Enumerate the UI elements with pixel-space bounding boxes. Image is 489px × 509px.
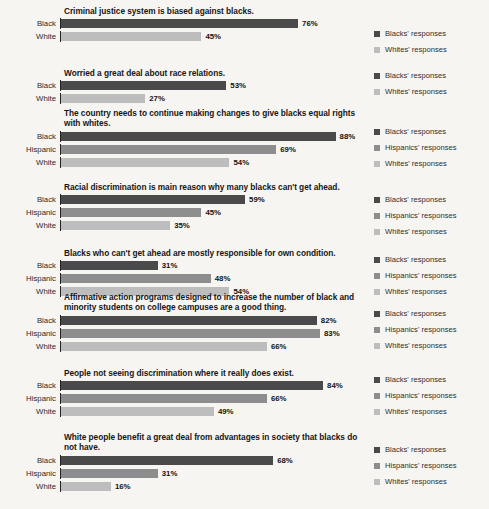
legend-swatch-icon xyxy=(374,89,380,95)
category-label: White xyxy=(0,406,60,417)
legend-item-black: Blacks' responses xyxy=(374,26,489,42)
legend-label: Hispanics' responses xyxy=(385,322,457,338)
legend-swatch-icon xyxy=(374,377,380,383)
legend-label: Hispanics' responses xyxy=(385,458,457,474)
bar-value-label: 66% xyxy=(267,341,287,352)
legend-item-hispanic: Hispanics' responses xyxy=(374,268,489,284)
legend-label: Blacks' responses xyxy=(385,26,446,42)
category-label: Hispanic xyxy=(0,328,60,339)
legend-label: Whites' responses xyxy=(385,338,447,354)
legend-label: Hispanics' responses xyxy=(385,140,457,156)
bar xyxy=(61,381,323,390)
legend-item-white: Whites' responses xyxy=(374,84,489,100)
category-label: Hispanic xyxy=(0,393,60,404)
legend-item-white: Whites' responses xyxy=(374,338,489,354)
category-label: Hispanic xyxy=(0,273,60,284)
legend-label: Whites' responses xyxy=(385,224,447,240)
bar xyxy=(61,456,273,465)
legend-item-hispanic: Hispanics' responses xyxy=(374,388,489,404)
bar-value-label: 76% xyxy=(298,18,318,29)
bar-value-label: 59% xyxy=(245,194,265,205)
bar-value-label: 53% xyxy=(226,80,246,91)
bar-value-label: 45% xyxy=(201,207,221,218)
bar-value-label: 82% xyxy=(317,315,337,326)
bar-value-label: 68% xyxy=(273,455,293,466)
legend-swatch-icon xyxy=(374,129,380,135)
legend-item-white: Whites' responses xyxy=(374,224,489,240)
legend-swatch-icon xyxy=(374,393,380,399)
legend-swatch-icon xyxy=(374,343,380,349)
bar xyxy=(61,342,267,351)
legend-item-black: Blacks' responses xyxy=(374,124,489,140)
category-label: White xyxy=(0,341,60,352)
legend-swatch-icon xyxy=(374,213,380,219)
category-label: White xyxy=(0,220,60,231)
legend-swatch-icon xyxy=(374,161,380,167)
legend-item-black: Blacks' responses xyxy=(374,372,489,388)
legend-item-black: Blacks' responses xyxy=(374,306,489,322)
category-label: Hispanic xyxy=(0,207,60,218)
legend-swatch-icon xyxy=(374,327,380,333)
legend-swatch-icon xyxy=(374,463,380,469)
bar xyxy=(61,221,170,230)
bar-value-label: 84% xyxy=(323,380,343,391)
bar xyxy=(61,329,320,338)
legend-swatch-icon xyxy=(374,447,380,453)
legend-label: Whites' responses xyxy=(385,404,447,420)
legend-label: Whites' responses xyxy=(385,474,447,490)
category-label: Hispanic xyxy=(0,144,60,155)
bar xyxy=(61,145,276,154)
category-label: Black xyxy=(0,315,60,326)
category-label: Black xyxy=(0,380,60,391)
bar xyxy=(61,81,226,90)
legend-label: Blacks' responses xyxy=(385,372,446,388)
legend-item-white: Whites' responses xyxy=(374,42,489,58)
bar-value-label: 49% xyxy=(214,406,234,417)
category-label: White xyxy=(0,93,60,104)
legend-label: Blacks' responses xyxy=(385,252,446,268)
legend-item-hispanic: Hispanics' responses xyxy=(374,208,489,224)
panel-legend: Blacks' responsesHispanics' responsesWhi… xyxy=(374,306,489,354)
panel-title: The country needs to continue making cha… xyxy=(64,108,364,129)
bar-value-label: 66% xyxy=(267,393,287,404)
panel-title: White people benefit a great deal from a… xyxy=(64,432,364,453)
bar xyxy=(61,407,214,416)
bar xyxy=(61,132,336,141)
legend-swatch-icon xyxy=(374,409,380,415)
legend-swatch-icon xyxy=(374,273,380,279)
category-label: White xyxy=(0,31,60,42)
legend-label: Hispanics' responses xyxy=(385,388,457,404)
legend-swatch-icon xyxy=(374,197,380,203)
bar-value-label: 88% xyxy=(336,131,356,142)
legend-item-white: Whites' responses xyxy=(374,156,489,172)
bar xyxy=(61,195,245,204)
legend-label: Whites' responses xyxy=(385,42,447,58)
panel-title: People not seeing discrimination where i… xyxy=(64,368,364,378)
category-label: Black xyxy=(0,18,60,29)
category-label: White xyxy=(0,481,60,492)
bar xyxy=(61,274,211,283)
panel-title: Worried a great deal about race relation… xyxy=(64,68,364,78)
bar xyxy=(61,482,111,491)
legend-item-black: Blacks' responses xyxy=(374,192,489,208)
panel-legend: Blacks' responsesHispanics' responsesWhi… xyxy=(374,124,489,172)
bar-value-label: 16% xyxy=(111,481,131,492)
bar xyxy=(61,316,317,325)
bar xyxy=(61,469,158,478)
legend-item-black: Blacks' responses xyxy=(374,68,489,84)
category-label: Hispanic xyxy=(0,468,60,479)
bar xyxy=(61,32,201,41)
legend-swatch-icon xyxy=(374,145,380,151)
bar-value-label: 31% xyxy=(158,468,178,479)
chart-page: Criminal justice system is biased agains… xyxy=(0,0,489,509)
bar-value-label: 69% xyxy=(276,144,296,155)
legend-swatch-icon xyxy=(374,229,380,235)
category-label: Black xyxy=(0,131,60,142)
legend-item-hispanic: Hispanics' responses xyxy=(374,140,489,156)
bar xyxy=(61,394,267,403)
legend-label: Blacks' responses xyxy=(385,306,446,322)
legend-swatch-icon xyxy=(374,47,380,53)
panel-title: Blacks who can't get ahead are mostly re… xyxy=(64,248,364,258)
legend-label: Blacks' responses xyxy=(385,192,446,208)
legend-label: Hispanics' responses xyxy=(385,268,457,284)
